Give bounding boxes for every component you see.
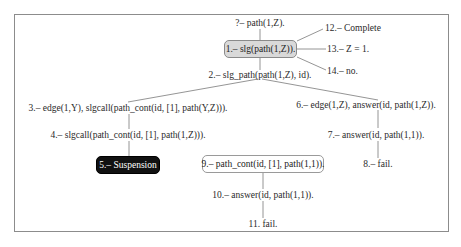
node-2-slg-path: 2.– slg_path(path(1,Z), id). bbox=[209, 69, 312, 81]
node-4-slgcall: 4.– slgcall(path_cont(id, [1], path(1,Z)… bbox=[50, 129, 205, 141]
node-9-path-cont-box: 9.– path_cont(id, [1], path(1,1)). bbox=[202, 155, 324, 173]
node-10-answer: 10.– answer(id, path(1,1)). bbox=[212, 189, 313, 201]
node-11-fail: 11. fail. bbox=[249, 218, 278, 230]
node-3-edge-slgcall: 3.– edge(1,Y), slgcall(path_cont(id, [1]… bbox=[29, 102, 228, 114]
node-8-fail: 8.– fail. bbox=[363, 158, 392, 170]
node-1-slg-box: 1.– slg(path(1,Z)). bbox=[224, 40, 297, 58]
node-7-answer: 7.– answer(id, path(1,1)). bbox=[328, 129, 425, 141]
node-5-suspension-box: 5.– Suspension bbox=[96, 156, 160, 174]
node-13-answer: 13.– Z = 1. bbox=[327, 43, 369, 55]
node-14-no: 14.– no. bbox=[327, 65, 358, 77]
node-6-edge-answer: 6.– edge(1,Z), answer(id, path(1,Z)). bbox=[296, 99, 436, 111]
query-label: ?– path(1,Z). bbox=[235, 17, 284, 29]
tree-edges bbox=[0, 0, 461, 247]
node-12-complete: 12.– Complete bbox=[325, 22, 381, 34]
